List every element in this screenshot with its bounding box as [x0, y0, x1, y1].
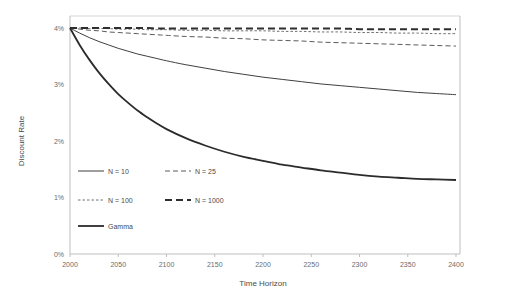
y-tick-label: 4% [54, 25, 64, 32]
series-lines [70, 28, 456, 180]
series-line-n-10 [70, 28, 456, 95]
discount-rate-chart: 0%1%2%3%4% 20002050210021502200225023002… [0, 0, 512, 297]
x-tick-label: 2000 [62, 261, 78, 268]
series-line-n-1000 [70, 28, 456, 29]
x-tick-label: 2250 [303, 261, 319, 268]
legend-label-n-10: N = 10 [108, 168, 129, 175]
x-axis-ticks: 200020502100215022002250230023502400 [62, 254, 464, 268]
y-tick-label: 3% [54, 81, 64, 88]
x-tick-label: 2350 [400, 261, 416, 268]
y-axis-ticks: 0%1%2%3%4% [54, 25, 64, 258]
x-tick-label: 2200 [255, 261, 271, 268]
y-tick-label: 1% [54, 194, 64, 201]
x-axis-title: Time Horizon [239, 279, 286, 288]
legend-label-gamma: Gamma [108, 223, 133, 230]
y-tick-label: 2% [54, 138, 64, 145]
legend-label-n-25: N = 25 [195, 168, 216, 175]
legend-label-n-1000: N = 1000 [195, 197, 224, 204]
x-tick-label: 2050 [110, 261, 126, 268]
chart-canvas: 0%1%2%3%4% 20002050210021502200225023002… [0, 0, 512, 297]
series-line-n-25 [70, 28, 456, 46]
chart-legend: N = 10N = 25N = 100N = 1000Gamma [78, 168, 224, 230]
x-tick-label: 2100 [159, 261, 175, 268]
x-tick-label: 2150 [207, 261, 223, 268]
x-tick-label: 2300 [352, 261, 368, 268]
y-tick-label: 0% [54, 251, 64, 258]
y-axis-title: Discount Rate [17, 115, 26, 166]
legend-label-n-100: N = 100 [108, 197, 133, 204]
x-tick-label: 2400 [448, 261, 464, 268]
